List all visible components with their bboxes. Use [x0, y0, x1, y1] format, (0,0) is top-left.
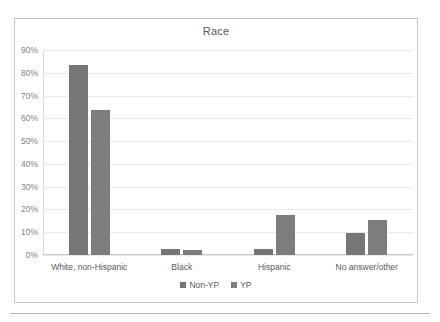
bar[interactable]	[346, 233, 365, 255]
gridline	[43, 255, 413, 256]
x-axis-category-label: Hispanic	[258, 262, 291, 272]
chart-container: Race 90%80%70%60%50%40%30%20%10%0% White…	[14, 18, 418, 303]
y-axis-line	[43, 50, 44, 255]
y-axis-tick-label: 0%	[26, 250, 38, 260]
legend-label: Non-YP	[189, 280, 219, 290]
bar[interactable]	[161, 249, 180, 255]
chart-legend: Non-YPYP	[15, 280, 417, 290]
legend-item[interactable]: YP	[231, 280, 251, 290]
bar-group	[161, 50, 202, 255]
x-axis-category-label: White, non-Hispanic	[51, 262, 127, 272]
y-axis-tick-label: 60%	[21, 113, 38, 123]
y-axis-tick-label: 40%	[21, 159, 38, 169]
chart-title: Race	[15, 25, 417, 37]
legend-swatch-icon	[231, 282, 237, 288]
y-axis-tick-label: 70%	[21, 91, 38, 101]
y-axis-tick-label: 80%	[21, 68, 38, 78]
legend-swatch-icon	[180, 282, 186, 288]
bar[interactable]	[276, 215, 295, 255]
bar-group	[346, 50, 387, 255]
bar-group	[69, 50, 110, 255]
bar[interactable]	[368, 220, 387, 255]
x-axis-category-label: Black	[171, 262, 192, 272]
y-axis-tick-label: 30%	[21, 182, 38, 192]
y-axis-tick-label: 50%	[21, 136, 38, 146]
plot-area: 90%80%70%60%50%40%30%20%10%0% White, non…	[43, 50, 413, 255]
bar[interactable]	[69, 65, 88, 255]
bottom-divider	[10, 313, 430, 314]
y-axis-tick-label: 90%	[21, 45, 38, 55]
legend-item[interactable]: Non-YP	[180, 280, 219, 290]
bar-group	[254, 50, 295, 255]
legend-label: YP	[240, 280, 251, 290]
bar[interactable]	[254, 249, 273, 255]
bar[interactable]	[91, 110, 110, 255]
y-axis-tick-label: 10%	[21, 227, 38, 237]
x-axis-category-label: No answer/other	[336, 262, 398, 272]
bar[interactable]	[183, 250, 202, 255]
y-axis-tick-label: 20%	[21, 204, 38, 214]
